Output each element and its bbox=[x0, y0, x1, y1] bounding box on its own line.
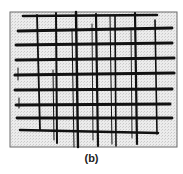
figure-frame bbox=[10, 12, 177, 147]
horizontal-line-2 bbox=[16, 43, 172, 45]
vertical-line-1 bbox=[56, 13, 57, 143]
vertical-line-8 bbox=[115, 16, 116, 146]
horizontal-line-0 bbox=[23, 15, 157, 16]
horizontal-line-3 bbox=[16, 58, 174, 60]
grid-figure bbox=[0, 0, 183, 174]
figure-caption: (b) bbox=[0, 152, 183, 164]
